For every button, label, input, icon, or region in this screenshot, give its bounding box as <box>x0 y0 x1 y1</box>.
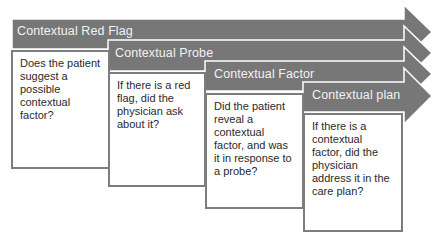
step-question-plan: If there is a contextual factor, did the… <box>312 120 390 197</box>
step-question-factor: Did the patient reveal a contextual fact… <box>214 100 292 177</box>
step-label-probe: Contextual Probe <box>115 46 213 60</box>
step-question-box-red-flag: Does the patient suggest a possible cont… <box>11 50 110 169</box>
step-question-red-flag: Does the patient suggest a possible cont… <box>20 57 100 121</box>
step-label-plan: Contextual plan <box>312 88 400 102</box>
step-question-box-plan: If there is a contextual factor, did the… <box>303 113 403 232</box>
step-label-red-flag: Contextual Red Flag <box>17 24 133 38</box>
step-question-box-factor: Did the patient reveal a contextual fact… <box>205 93 304 209</box>
contextual-care-flow-diagram: Contextual Red Flag Contextual Probe Con… <box>0 0 443 240</box>
step-question-probe: If there is a red flag, did the physicia… <box>117 79 190 130</box>
step-label-factor: Contextual Factor <box>214 67 314 81</box>
step-question-box-probe: If there is a red flag, did the physicia… <box>108 72 206 187</box>
